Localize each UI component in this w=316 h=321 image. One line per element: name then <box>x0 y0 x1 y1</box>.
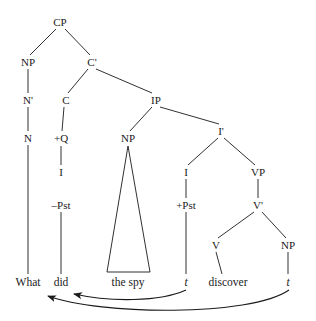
node-c-head: C <box>62 95 69 106</box>
node-i-bar: I' <box>218 126 224 137</box>
node-np-spec: NP <box>21 57 35 68</box>
branch-c-plusq <box>62 107 64 131</box>
branch-ibar-i <box>188 138 218 165</box>
tree-branches <box>28 29 288 274</box>
syntax-tree-figure: CP NP C' N' C IP N +Q NP I' I I VP –Pst … <box>0 0 316 321</box>
node-cp: CP <box>53 17 66 28</box>
node-i-under-c: I <box>59 167 63 178</box>
branch-ibar-vp <box>224 138 255 165</box>
node-v-bar: V' <box>253 200 263 211</box>
node-c-bar: C' <box>87 57 96 68</box>
movement-arrows <box>48 290 289 310</box>
branch-cbar-ip <box>96 69 152 93</box>
tree-graphics <box>0 0 316 321</box>
branch-cp-cbar <box>65 29 90 55</box>
node-n-bar: N' <box>23 95 33 106</box>
terminal-discover: discover <box>209 277 248 288</box>
terminal-trace-2: t <box>286 277 289 288</box>
head-movement-arrow <box>74 290 186 300</box>
node-i-head: I <box>184 167 188 178</box>
branch-cbar-c <box>68 69 88 93</box>
node-plus-q: +Q <box>54 133 68 144</box>
branch-cp-np <box>30 29 56 55</box>
node-plus-pst: +Pst <box>176 200 196 211</box>
node-v-head: V <box>212 240 220 251</box>
terminal-the-spy: the spy <box>112 277 145 288</box>
node-np-subject: NP <box>121 133 135 144</box>
node-n-head: N <box>24 133 32 144</box>
node-ip: IP <box>151 95 161 106</box>
branch-v-discover <box>216 252 222 274</box>
node-minus-pst: –Pst <box>52 200 71 211</box>
branch-vbar-npobj <box>262 212 286 238</box>
terminal-did: did <box>54 277 69 288</box>
terminal-what: What <box>16 277 41 288</box>
node-np-object: NP <box>281 240 295 251</box>
node-vp: VP <box>251 167 265 178</box>
branch-ip-npsubj <box>130 107 152 131</box>
wh-movement-arrow <box>48 290 289 310</box>
terminal-trace-1: t <box>184 277 187 288</box>
branch-ip-ibar <box>160 107 219 124</box>
np-triangle <box>107 146 150 272</box>
branch-vbar-v <box>218 212 254 238</box>
